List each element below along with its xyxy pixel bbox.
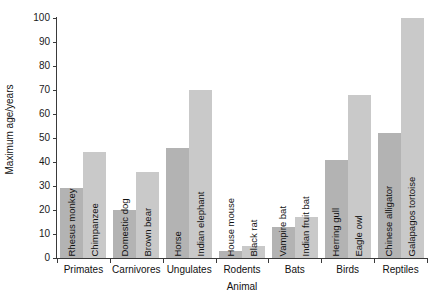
y-axis-tick: 80: [39, 61, 57, 71]
y-axis-tick: 0: [44, 253, 57, 263]
bar[interactable]: Chimpanzee: [83, 152, 106, 258]
bar-group: HorseIndian elephant: [163, 18, 216, 258]
y-axis-tick-label: 10: [39, 229, 50, 239]
bar-group: Vampire batIndian fruit bat: [268, 18, 321, 258]
bar-label: Galapagos tortoise: [407, 176, 417, 256]
y-axis-tick: 90: [39, 37, 57, 47]
bar-label: Chinese alligator: [384, 185, 394, 256]
bar[interactable]: Brown bear: [136, 172, 159, 258]
y-axis-tick-label: 100: [33, 13, 50, 23]
x-axis-group-label: Birds: [321, 264, 374, 278]
bar-label: Indian fruit bat: [302, 196, 312, 256]
group-separator-tick: [57, 258, 58, 263]
bar-label: Vampire bat: [279, 205, 289, 256]
y-axis-tick-label: 30: [39, 181, 50, 191]
y-axis-tick: 10: [39, 229, 57, 239]
bar-label: Chimpanzee: [90, 203, 100, 256]
group-separator-tick: [110, 258, 111, 263]
bar-group: House mouseBlack rat: [216, 18, 269, 258]
group-separator-tick: [427, 258, 428, 263]
y-axis-tick: 30: [39, 181, 57, 191]
x-axis-group-label: Bats: [268, 264, 321, 278]
y-axis-tick: 70: [39, 85, 57, 95]
bar-label: Eagle owl: [354, 215, 364, 256]
group-separator-tick: [321, 258, 322, 263]
bar[interactable]: Domestic dog: [113, 210, 136, 258]
y-axis-tick-label: 20: [39, 205, 50, 215]
y-axis-tick-label: 80: [39, 61, 50, 71]
bar[interactable]: Black rat: [242, 246, 265, 258]
bar[interactable]: House mouse: [219, 251, 242, 258]
bar-label: Rhesus monkey: [67, 188, 77, 256]
bar[interactable]: Indian fruit bat: [295, 217, 318, 258]
y-axis-tick: 100: [33, 13, 57, 23]
bar-label: House mouse: [226, 197, 236, 256]
y-axis-tick: 20: [39, 205, 57, 215]
y-axis-tick: 60: [39, 109, 57, 119]
y-axis-tick-label: 50: [39, 133, 50, 143]
y-axis-tick-label: 90: [39, 37, 50, 47]
bar-groups: Rhesus monkeyChimpanzeeDomestic dogBrown…: [57, 18, 427, 258]
bar-label: Brown bear: [143, 207, 153, 256]
bar-group: Chinese alligatorGalapagos tortoise: [374, 18, 427, 258]
bar-group: Rhesus monkeyChimpanzee: [57, 18, 110, 258]
y-axis-tick-label: 40: [39, 157, 50, 167]
x-axis-line: [56, 258, 428, 259]
bar-group: Domestic dogBrown bear: [110, 18, 163, 258]
bar-label: Domestic dog: [120, 198, 130, 256]
bar-label: Horse: [173, 231, 183, 256]
bar[interactable]: Rhesus monkey: [60, 188, 83, 258]
group-separator-tick: [268, 258, 269, 263]
y-axis-tick-label: 70: [39, 85, 50, 95]
bar-label: Black rat: [249, 219, 259, 256]
y-axis-tick: 50: [39, 133, 57, 143]
bar[interactable]: Indian elephant: [189, 90, 212, 258]
y-axis-title-text: Maximum age/years: [4, 84, 15, 174]
x-axis-group-labels: PrimatesCarnivoresUngulatesRodentsBatsBi…: [57, 264, 427, 278]
x-axis-group-label: Reptiles: [374, 264, 427, 278]
group-separator-tick: [163, 258, 164, 263]
bar[interactable]: Chinese alligator: [378, 133, 401, 258]
x-axis-group-label: Ungulates: [163, 264, 216, 278]
y-axis-title: Maximum age/years: [2, 0, 16, 258]
x-axis-title: Animal: [57, 281, 427, 292]
y-axis-tick-label: 60: [39, 109, 50, 119]
x-axis-title-text: Animal: [227, 281, 258, 292]
plot-area: 0102030405060708090100 Rhesus monkeyChim…: [57, 18, 427, 258]
bar-label: Indian elephant: [196, 191, 206, 256]
bar[interactable]: Horse: [166, 148, 189, 258]
bar[interactable]: Galapagos tortoise: [401, 18, 424, 258]
y-axis-tick: 40: [39, 157, 57, 167]
x-axis-group-label: Primates: [57, 264, 110, 278]
y-axis-tick-label: 0: [44, 253, 50, 263]
bar[interactable]: Herring gull: [325, 160, 348, 258]
bar-chart-figure: Maximum age/years 0102030405060708090100…: [0, 0, 436, 300]
bar[interactable]: Vampire bat: [272, 227, 295, 258]
bar[interactable]: Eagle owl: [348, 95, 371, 258]
x-axis-group-label: Rodents: [216, 264, 269, 278]
x-axis-group-label: Carnivores: [110, 264, 163, 278]
bar-group: Herring gullEagle owl: [321, 18, 374, 258]
group-separator-tick: [374, 258, 375, 263]
bar-label: Herring gull: [331, 207, 341, 256]
group-separator-tick: [216, 258, 217, 263]
